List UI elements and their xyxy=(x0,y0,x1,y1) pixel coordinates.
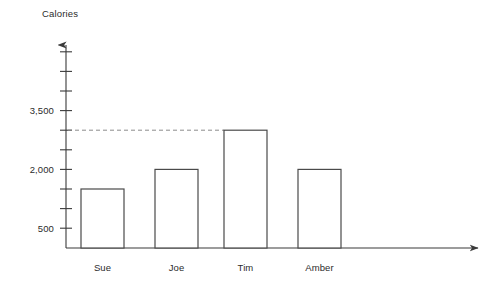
bar-sue[interactable] xyxy=(81,189,124,248)
bar-chart: Calories 3,500 2,000 500 Sue Joe Tim Amb… xyxy=(0,0,494,296)
y-axis-title: Calories xyxy=(42,8,78,19)
x-tick-label-tim: Tim xyxy=(215,262,276,273)
bar-joe[interactable] xyxy=(155,169,198,248)
x-tick-label-sue: Sue xyxy=(72,262,133,273)
y-tick-label-500: 500 xyxy=(0,223,54,234)
chart-screenshot: Calories 3,500 2,000 500 Sue Joe Tim Amb… xyxy=(0,0,494,296)
bar-tim[interactable] xyxy=(224,130,267,248)
bar-amber[interactable] xyxy=(298,169,341,248)
bars-group xyxy=(81,130,341,248)
x-tick-label-amber: Amber xyxy=(289,262,350,273)
y-tick-label-3500: 3,500 xyxy=(0,105,54,116)
x-tick-label-joe: Joe xyxy=(146,262,207,273)
chart-canvas xyxy=(0,0,494,296)
y-tick-label-2000: 2,000 xyxy=(0,164,54,175)
